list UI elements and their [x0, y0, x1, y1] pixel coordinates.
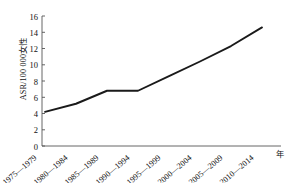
- chart-figure: ASR/100 000女性 16 14 12 10 8 6 4 2 0: [0, 0, 293, 183]
- x-axis-title: 年: [276, 150, 284, 159]
- data-series-line: [45, 27, 262, 112]
- plot-area: [0, 0, 293, 183]
